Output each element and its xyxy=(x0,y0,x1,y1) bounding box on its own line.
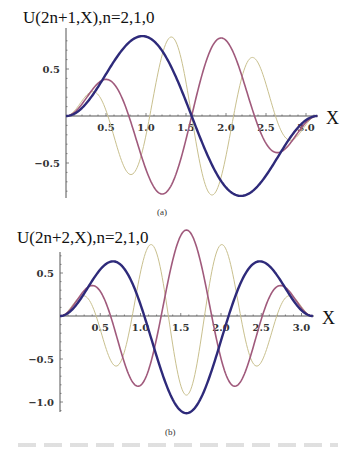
cropped-caption-text xyxy=(18,443,338,447)
x-tick-label: 3.0 xyxy=(293,322,310,333)
chart-b-caption: (b) xyxy=(165,427,176,437)
series-line-n-2 xyxy=(60,245,313,396)
x-tick-label: 2.5 xyxy=(253,322,270,333)
chart-b-plot: 0.51.01.52.02.53.00.5−0.5−1.0X xyxy=(0,0,348,451)
y-tick-label: −1.0 xyxy=(28,397,54,408)
x-axis-label: X xyxy=(322,308,335,328)
chart-panel-b: U(2n+2,X),n=2,1,0 0.51.01.52.02.53.00.5−… xyxy=(0,0,348,451)
series-line-n-0 xyxy=(60,261,313,413)
x-tick-label: 0.5 xyxy=(92,322,109,333)
series-line-n-1 xyxy=(60,230,313,386)
y-tick-label: 0.5 xyxy=(37,268,54,279)
y-tick-label: −0.5 xyxy=(28,354,54,365)
x-tick-label: 1.5 xyxy=(172,322,189,333)
